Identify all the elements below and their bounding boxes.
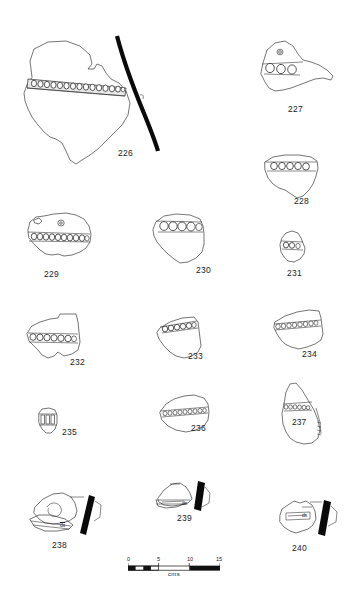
annotation-ds-239: ds [182,500,187,506]
figure-label-238: 238 [52,540,67,550]
figure-234 [265,306,335,356]
impression-row-229 [31,233,89,241]
annotation-ds-238: ds [60,522,65,528]
ds-text-239: ds [182,500,187,506]
figure-label-237: 237 [292,417,306,427]
profile-section-240 [310,492,346,548]
figure-label-227: 227 [288,104,303,114]
figure-235 [33,405,63,439]
scale-tick-15: 15 [216,556,222,562]
illustration-plate: 226 227 [0,0,352,608]
impression-row-236 [163,408,206,416]
ds-text-240: ds [302,512,307,518]
figure-229 [22,208,97,266]
figure-label-229: 229 [44,269,59,279]
impression-row-231 [283,242,300,249]
figure-237 [272,378,342,450]
profile-section-238 [68,489,108,545]
figure-label-230: 230 [196,265,211,275]
impression-row-228 [271,162,310,170]
figure-230 [148,210,214,270]
scale-tick-10: 10 [187,556,193,562]
figure-231 [272,228,314,272]
impression-row-237 [284,405,310,410]
figure-233 [150,312,216,364]
figure-227 [253,38,338,104]
figure-label-231: 231 [287,268,302,278]
impression-row-227 [266,63,297,74]
figure-label-240: 240 [292,543,307,553]
figure-label-239: 239 [177,513,192,523]
annotation-ds-240: ds [302,512,307,518]
ds-text-238: ds [60,522,65,528]
impression-row-232 [30,334,77,342]
scale-tick-0: 0 [127,556,130,562]
figure-232 [20,310,90,364]
scale-tick-5: 5 [157,556,160,562]
incised-bars-235 [41,415,54,424]
figure-label-236: 236 [191,423,206,433]
profile-section-239 [188,477,218,523]
figure-label-233: 233 [188,351,203,361]
figure-label-235: 235 [62,427,77,437]
figure-236 [152,390,222,442]
profile-section-226 [108,33,168,168]
figure-label-232: 232 [70,357,85,367]
figure-label-228: 228 [294,196,309,206]
figure-label-234: 234 [302,349,317,359]
scale-caption: cms [128,571,220,577]
impression-row-230 [160,222,202,231]
scale-bar: 0 5 10 15 [128,560,220,580]
